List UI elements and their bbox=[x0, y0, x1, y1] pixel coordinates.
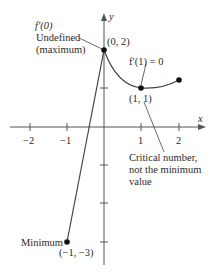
annotation-fprime0: f′(0) bbox=[35, 20, 53, 32]
annotation-undefined: Undefined bbox=[36, 32, 81, 43]
annotation-minimum: Minimum bbox=[21, 237, 63, 248]
leader-fprime1 bbox=[141, 64, 146, 85]
x-tick-label-1: 1 bbox=[138, 135, 143, 146]
label-min-point: (−1, −3) bbox=[59, 247, 94, 259]
point-endpoint bbox=[176, 77, 182, 83]
x-tick-label-2: 2 bbox=[176, 135, 181, 146]
point-critical bbox=[138, 85, 144, 91]
linear-segment bbox=[67, 50, 104, 242]
annotation-critical-line1: Critical number, bbox=[129, 152, 197, 163]
y-axis-arrow-icon bbox=[101, 13, 107, 21]
y-axis-label: y bbox=[108, 11, 114, 22]
label-max-point: (0, 2) bbox=[107, 36, 130, 48]
point-min bbox=[64, 239, 70, 245]
graph-diagram: y x −2 −1 1 2 (0, 2) (1, 1) (−1, −3) f′(… bbox=[0, 0, 216, 276]
annotation-critical-line3: value bbox=[129, 176, 152, 187]
annotation-fprime1: f′(1) = 0 bbox=[129, 56, 163, 68]
point-max bbox=[101, 47, 107, 53]
annotation-critical-line2: not the minimum bbox=[129, 164, 201, 175]
label-critical-point: (1, 1) bbox=[129, 93, 152, 105]
x-axis-arrow-icon bbox=[198, 124, 206, 130]
x-tick-label-neg1: −1 bbox=[60, 135, 71, 146]
annotation-maximum: (maximum) bbox=[36, 44, 86, 56]
x-tick-label-neg2: −2 bbox=[23, 135, 34, 146]
x-axis-label: x bbox=[197, 113, 203, 124]
